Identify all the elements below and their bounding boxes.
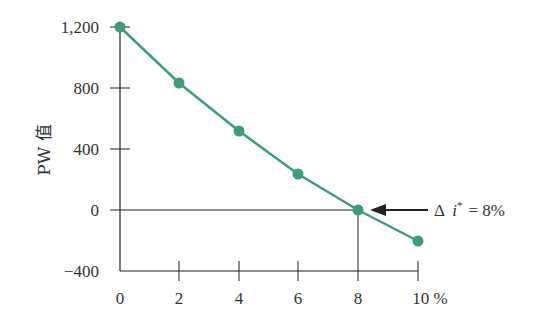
pw-series-markers — [115, 22, 424, 247]
data-point — [413, 236, 424, 247]
y-tick-label: 800 — [74, 79, 100, 98]
y-tick-label: 400 — [74, 140, 100, 159]
data-point — [234, 126, 245, 137]
y-tick-label: 1,200 — [61, 18, 99, 37]
x-tick-label: 10 % — [412, 289, 447, 308]
irr-annotation: Δ i*= 8% — [434, 199, 505, 220]
data-point — [174, 78, 185, 89]
x-tick-label: 8 — [354, 289, 363, 308]
y-tick-label: 0 — [91, 201, 100, 220]
x-tick-label: 6 — [294, 289, 303, 308]
x-tick-label: 0 — [116, 289, 125, 308]
annotation-arrow — [370, 204, 428, 216]
x-tick-label: 2 — [175, 289, 184, 308]
y-axis-title: PW 值 — [34, 124, 54, 175]
chart: 1,200 800 400 0 −400 0 2 4 6 8 10 % PW 值… — [0, 0, 550, 334]
y-tick-label: −400 — [64, 262, 99, 281]
data-point — [353, 205, 364, 216]
x-tick-label: 4 — [235, 289, 244, 308]
data-point — [293, 169, 304, 180]
data-point — [115, 22, 126, 33]
